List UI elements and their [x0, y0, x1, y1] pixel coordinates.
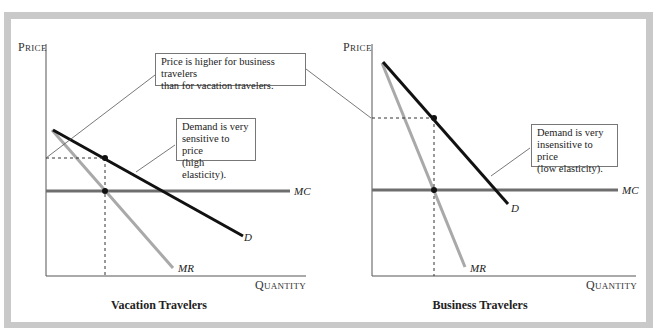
- left-mr-mc-intersection: [102, 188, 108, 194]
- right-demand-label: D: [510, 202, 519, 214]
- left-panel-title: Vacation Travelers: [111, 298, 207, 312]
- left-elasticity-annotation: Demand is very sensitive to price (high …: [176, 118, 256, 161]
- right-mr-label: MR: [469, 262, 486, 274]
- left-demand-leader: [136, 145, 175, 172]
- left-price-point: [102, 155, 108, 161]
- left-price-leader: [46, 75, 155, 158]
- left-mr-label: MR: [177, 262, 194, 274]
- shared-price-annotation: Price is higher for business travelers t…: [155, 53, 306, 86]
- left-annotation-line-3: (high elasticity).: [182, 157, 250, 181]
- left-mr-curve: [52, 130, 173, 268]
- right-annotation-line-3: (low elasticity).: [537, 163, 612, 175]
- left-mc-label: MC: [293, 185, 311, 197]
- right-demand-curve: [383, 62, 508, 204]
- left-demand-label: D: [243, 231, 252, 243]
- left-y-axis-label: PRICE: [18, 40, 47, 54]
- left-x-axis-label: QUANTITY: [255, 278, 306, 292]
- shared-annotation-line-2: than for vacation travelers.: [161, 80, 300, 92]
- right-annotation-line-2: insensitive to price: [537, 139, 612, 163]
- right-x-axis-label: QUANTITY: [586, 278, 637, 292]
- right-annotation-line-1: Demand is very: [537, 127, 612, 139]
- right-panel-title: Business Travelers: [432, 298, 528, 312]
- right-price-point: [431, 115, 437, 121]
- left-annotation-line-2: sensitive to price: [182, 133, 250, 157]
- right-chart: PRICE QUANTITY MC MR D Business Traveler…: [306, 40, 639, 312]
- right-y-axis-label: PRICE: [343, 40, 372, 54]
- shared-annotation-line-1: Price is higher for business travelers: [161, 56, 300, 80]
- left-annotation-line-1: Demand is very: [182, 121, 250, 133]
- right-mc-label: MC: [621, 184, 639, 196]
- right-demand-leader: [491, 148, 530, 176]
- right-price-leader: [306, 69, 371, 118]
- right-elasticity-annotation: Demand is very insensitive to price (low…: [531, 124, 618, 167]
- right-mr-mc-intersection: [431, 187, 437, 193]
- right-mr-curve: [382, 63, 465, 267]
